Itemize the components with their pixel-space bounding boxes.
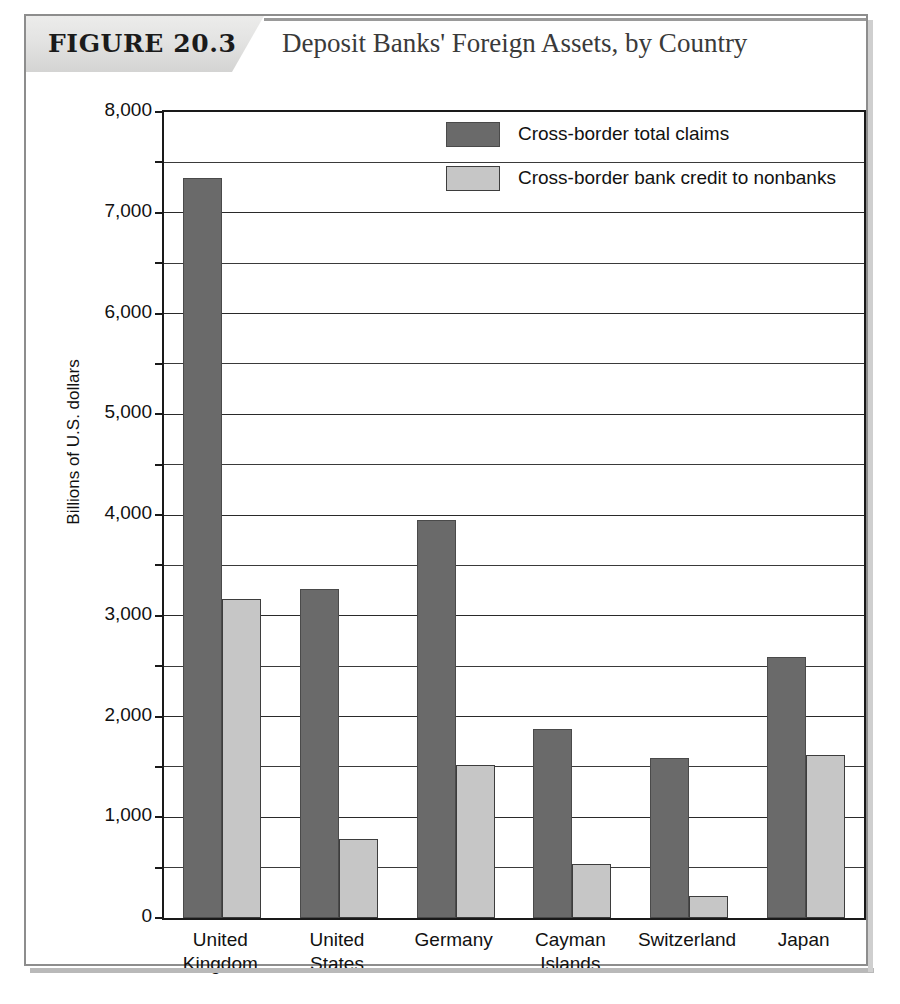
y-axis-tick: [155, 716, 164, 718]
y-axis-tick: [155, 816, 164, 818]
y-axis-tick: [155, 363, 164, 365]
gridline: [164, 716, 864, 717]
figure-header: FIGURE 20.3 Deposit Banks' Foreign Asset…: [26, 16, 866, 72]
y-axis-tick: [155, 212, 164, 214]
y-axis-tick: [155, 161, 164, 163]
y-axis-tick: [155, 917, 164, 919]
bar-total-claims: [417, 520, 456, 918]
y-axis-tick-label: 1,000: [32, 804, 152, 826]
gridline: [164, 615, 864, 616]
y-axis-tick-label: 4,000: [32, 502, 152, 524]
chart-legend: Cross-border total claims Cross-border b…: [446, 112, 836, 200]
figure-drop-shadow: [30, 968, 874, 973]
plot-area: [162, 110, 866, 920]
legend-label-nonbank-credit: Cross-border bank credit to nonbanks: [518, 167, 836, 189]
bar-total-claims: [767, 657, 806, 918]
gridline: [164, 414, 864, 415]
y-axis-tick: [155, 564, 164, 566]
y-axis-tick: [155, 867, 164, 869]
y-axis-tick: [155, 413, 164, 415]
bar-nonbank-credit: [339, 839, 378, 918]
y-axis-tick-label: 7,000: [32, 200, 152, 222]
gridline: [164, 464, 864, 465]
x-axis-category-label: Switzerland: [629, 928, 746, 952]
legend-swatch-nonbank-credit: [446, 166, 500, 191]
y-axis-tick: [155, 262, 164, 264]
y-axis-tick-label: 5,000: [32, 401, 152, 423]
y-axis-tick: [155, 111, 164, 113]
gridline: [164, 363, 864, 364]
y-axis-tick: [155, 313, 164, 315]
bar-total-claims: [533, 729, 572, 918]
gridline: [164, 666, 864, 667]
legend-swatch-total-claims: [446, 122, 500, 147]
y-axis-tick: [155, 615, 164, 617]
header-rule: [264, 18, 866, 21]
x-axis-category-line: Cayman: [512, 928, 629, 952]
x-axis-category-line: Germany: [395, 928, 512, 952]
y-axis-tick: [155, 766, 164, 768]
gridline: [164, 817, 864, 818]
x-axis-category-label: Japan: [745, 928, 862, 952]
bar-nonbank-credit: [572, 864, 611, 918]
gridline: [164, 565, 864, 566]
bar-nonbank-credit: [806, 755, 845, 918]
x-axis-category-label: Germany: [395, 928, 512, 952]
figure-number-label: FIGURE 20.3: [48, 29, 237, 58]
figure-frame: FIGURE 20.3 Deposit Banks' Foreign Asset…: [24, 14, 868, 966]
y-axis-tick-label: 6,000: [32, 301, 152, 323]
bar-total-claims: [183, 178, 222, 919]
bar-total-claims: [300, 589, 339, 918]
figure-title: Deposit Banks' Foreign Assets, by Countr…: [282, 28, 747, 59]
x-axis-category-line: United: [162, 928, 279, 952]
legend-item-total-claims: Cross-border total claims: [446, 112, 836, 156]
y-axis-tick-label: 0: [32, 905, 152, 927]
x-axis-category-line: Japan: [745, 928, 862, 952]
figure-drop-shadow-right: [868, 20, 873, 972]
gridline: [164, 313, 864, 314]
y-axis-tick-label: 2,000: [32, 704, 152, 726]
gridline: [164, 867, 864, 868]
gridline: [164, 212, 864, 213]
x-axis-category-line: Switzerland: [629, 928, 746, 952]
legend-label-total-claims: Cross-border total claims: [518, 123, 729, 145]
y-axis-tick-label: 8,000: [32, 99, 152, 121]
y-axis-tick-label: 3,000: [32, 603, 152, 625]
y-axis-tick: [155, 514, 164, 516]
gridline: [164, 263, 864, 264]
legend-item-nonbank-credit: Cross-border bank credit to nonbanks: [446, 156, 836, 200]
bar-nonbank-credit: [689, 896, 728, 918]
bar-total-claims: [650, 758, 689, 918]
gridline: [164, 515, 864, 516]
x-axis-category-line: United: [279, 928, 396, 952]
y-axis-tick: [155, 665, 164, 667]
chart-region: Billions of U.S. dollars Cross-border to…: [26, 72, 866, 964]
bar-nonbank-credit: [222, 599, 261, 918]
plot-inner: [164, 112, 864, 918]
gridline: [164, 766, 864, 767]
y-axis-tick: [155, 464, 164, 466]
bar-nonbank-credit: [456, 765, 495, 918]
